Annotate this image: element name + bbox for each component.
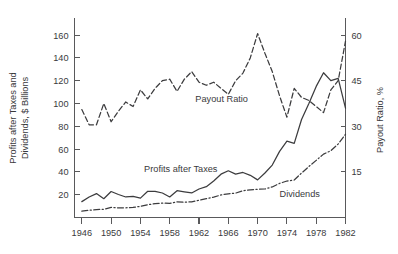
x-axis-tick-label: 1962 [189,228,209,238]
y-axis-right-tick-label: 45 [352,76,362,86]
y-axis-left-tick-label: 20 [58,190,68,200]
x-axis-tick-label: 1954 [130,228,150,238]
x-axis-tick-label: 1946 [72,228,92,238]
y-axis-right-tick-label: 60 [352,31,362,41]
series-group [82,34,346,212]
chart-figure: 20406080100120140160 15304560 1946195019… [0,0,398,254]
y-axis-left-tick-label: 80 [58,122,68,132]
y-axis-left-tick-label: 60 [58,145,68,155]
y-axis-right-tick-label: 30 [352,122,362,132]
y-axis-left-tick-label: 160 [53,31,68,41]
y-axis-right-title: Payout Ratio, % [375,87,385,153]
axes-group [75,18,346,218]
x-axis-tick-label: 1978 [306,228,326,238]
y-axis-left-tick-label: 40 [58,167,68,177]
y-axis-right-tick-label: 15 [352,167,362,177]
y-axis-left-tick-label: 140 [53,53,68,63]
series-annotations: Payout RatioProfits after TaxesDividends [144,94,320,199]
x-axis-tick-label: 1970 [247,228,267,238]
series-label-dividends: Dividends [280,189,321,199]
line-chart: 20406080100120140160 15304560 1946195019… [0,0,398,254]
x-axis-tick-label: 1950 [101,228,121,238]
x-axis-tick-label: 1966 [218,228,238,238]
y-axis-left-tick-label: 100 [53,99,68,109]
series-line-profits-after-taxes [82,73,346,202]
x-axis-tick-label: 1974 [277,228,297,238]
y-axis-left-title-line1: Profits after Taxes and [8,72,18,163]
series-label-profits-after-taxes: Profits after Taxes [144,164,218,174]
y-axis-left-ticks: 20406080100120140160 [53,31,79,201]
y-axis-left-title-line2: Dividends, $ Billions [20,76,30,159]
x-axis-ticks: 1946195019541958196219661970197419781982 [72,218,356,238]
x-axis-tick-label: 1982 [335,228,355,238]
x-axis-tick-label: 1958 [159,228,179,238]
y-axis-left-tick-label: 120 [53,76,68,86]
series-label-payout-ratio: Payout Ratio [195,94,248,104]
